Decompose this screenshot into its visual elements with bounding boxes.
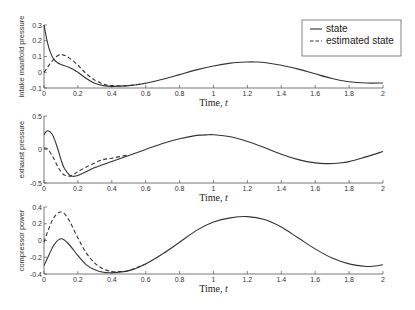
y-tick-label: 0.5 [32, 113, 42, 120]
estimated-state-line [44, 212, 146, 272]
x-tick-label: 1.6 [310, 276, 320, 283]
x-tick-label: 1.2 [243, 276, 253, 283]
subplot-3: 00.20.40.60.811.21.41.61.82-0.4-0.200.20… [17, 204, 385, 295]
x-tick-label: 0.6 [141, 276, 151, 283]
y-tick-label: -0.2 [30, 254, 42, 261]
y-tick-label: -0.4 [30, 271, 42, 278]
x-tick-label: 0.6 [141, 185, 151, 192]
x-tick-label: 0.4 [107, 276, 117, 283]
y-axis-label: compressor power [17, 209, 26, 271]
y-tick-label: 0 [38, 146, 42, 153]
x-tick-label: 1.8 [344, 185, 354, 192]
x-tick-label: 0.8 [175, 185, 185, 192]
x-tick-label: 1.4 [276, 90, 286, 97]
x-tick-label: 0.6 [141, 90, 151, 97]
x-tick-label: 0.4 [107, 185, 117, 192]
y-tick-label: 0.2 [32, 220, 42, 227]
y-axis-label: intake manifold pressure [17, 16, 26, 98]
x-tick-label: 0 [42, 276, 46, 283]
legend-label: state [326, 23, 348, 34]
y-tick-label: 0.1 [32, 53, 42, 60]
x-axis-label: Time, t [199, 97, 228, 108]
x-tick-label: 0.8 [175, 276, 185, 283]
x-axis-label: Time, t [199, 192, 228, 203]
x-tick-label: 0.2 [73, 185, 83, 192]
y-axis-label: exhaust pressure [17, 121, 26, 179]
x-tick-label: 1.4 [276, 185, 286, 192]
figure: 00.20.40.60.811.21.41.61.82-0.100.10.20.… [0, 0, 415, 310]
x-tick-label: 1.2 [243, 90, 253, 97]
x-tick-label: 1 [212, 276, 216, 283]
x-tick-label: 1.8 [344, 276, 354, 283]
subplot-2: 00.20.40.60.811.21.41.61.82-0.500.5exhau… [17, 113, 385, 204]
x-tick-label: 0.2 [73, 276, 83, 283]
state-line [44, 217, 383, 273]
estimated-state-line [44, 55, 146, 86]
x-tick-label: 1.6 [310, 185, 320, 192]
x-tick-label: 2 [381, 90, 385, 97]
x-tick-label: 1.6 [310, 90, 320, 97]
x-tick-label: 2 [381, 276, 385, 283]
y-tick-label: -0.5 [30, 180, 42, 187]
y-tick-label: 0 [38, 237, 42, 244]
x-tick-label: 1.4 [276, 276, 286, 283]
x-tick-label: 0 [42, 90, 46, 97]
state-line [44, 131, 383, 177]
y-tick-label: 0.3 [32, 22, 42, 29]
y-tick-label: 0 [38, 69, 42, 76]
x-tick-label: 0.2 [73, 90, 83, 97]
x-tick-label: 0 [42, 185, 46, 192]
x-tick-label: 2 [381, 185, 385, 192]
x-tick-label: 1.8 [344, 90, 354, 97]
legend: stateestimated state [302, 20, 401, 56]
x-tick-label: 1 [212, 185, 216, 192]
y-tick-label: 0.2 [32, 37, 42, 44]
x-tick-label: 1 [212, 90, 216, 97]
y-tick-label: 0.4 [32, 204, 42, 211]
x-tick-label: 0.8 [175, 90, 185, 97]
legend-label: estimated state [326, 35, 394, 46]
y-tick-label: -0.1 [30, 85, 42, 92]
x-axis-label: Time, t [199, 283, 228, 294]
x-tick-label: 1.2 [243, 185, 253, 192]
x-tick-label: 0.4 [107, 90, 117, 97]
